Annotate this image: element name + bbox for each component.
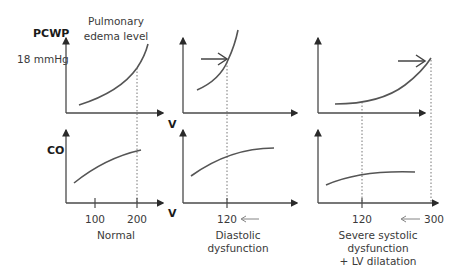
tick-120-diastolic: 120 [217,213,237,225]
panel-normal-co [66,130,163,208]
v-label-top: V [168,118,177,131]
v-label-bottom: V [168,207,177,220]
caption-systolic-3: + LV dilatation [340,255,417,267]
panel-systolic-pcwp [318,38,431,203]
caption-normal: Normal [97,229,135,241]
tick-300: 300 [424,213,444,225]
caption-diastolic-1: Diastolic [215,229,260,241]
edema-label-line1: Pulmonary [88,15,144,27]
caption-systolic-2: dysfunction [347,242,408,254]
panel-diastolic-pcwp [183,30,297,203]
pressure-volume-diagram: PCWP 18 mmHg Pulmonary edema level CO V … [0,0,454,276]
pcwp-label: PCWP [33,27,69,40]
tick-120-systolic: 120 [352,213,372,225]
co-label: CO [47,144,64,157]
tick-100: 100 [85,213,105,225]
panel-systolic-co [318,130,438,208]
caption-systolic-1: Severe systolic [339,229,418,241]
panel-diastolic-co [183,130,297,208]
caption-diastolic-2: dysfunction [207,242,268,254]
edema-label-line2: edema level [84,30,149,42]
tick-200: 200 [127,213,147,225]
mmhg-label: 18 mmHg [17,53,69,65]
